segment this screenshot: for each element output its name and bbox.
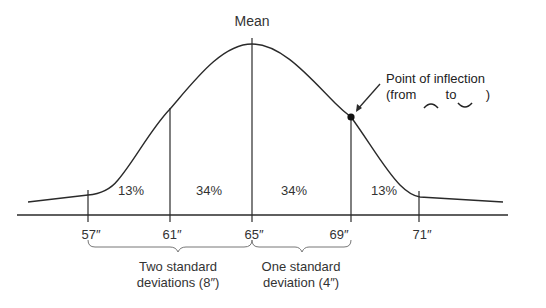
inflection-point-dot [347, 113, 354, 120]
percent-61-65: 34% [196, 184, 222, 197]
two-std-line2: deviations (8″) [137, 275, 220, 291]
tick-label-71: 71″ [412, 228, 431, 241]
two-std-label: Two standard deviations (8″) [137, 259, 220, 291]
inflection-from-text: (from [386, 87, 416, 102]
bell-curve [28, 44, 503, 202]
concave-down-icon [424, 104, 438, 108]
inflection-to-text: to [446, 87, 457, 102]
inflection-label-line1: Point of inflection [386, 71, 490, 87]
inflection-close-paren: ) [486, 87, 490, 102]
tick-label-57: 57″ [81, 228, 100, 241]
tick-label-69: 69″ [329, 228, 348, 241]
two-std-line1: Two standard [137, 259, 220, 275]
inflection-label: Point of inflection (from to ) [386, 71, 490, 103]
annotation-arrow [357, 84, 380, 110]
one-std-line2: deviation (4″) [262, 275, 341, 291]
concave-up-icon [458, 103, 472, 107]
one-std-label: One standard deviation (4″) [262, 259, 341, 291]
percent-69-71: 13% [371, 184, 397, 197]
mean-label: Mean [234, 14, 269, 28]
one-std-line1: One standard [262, 259, 341, 275]
percent-57-61: 13% [118, 184, 144, 197]
percent-65-69: 34% [281, 184, 307, 197]
tick-label-65: 65″ [244, 228, 263, 241]
tick-label-61: 61″ [162, 228, 181, 241]
inflection-label-line2: (from to ) [386, 87, 490, 103]
